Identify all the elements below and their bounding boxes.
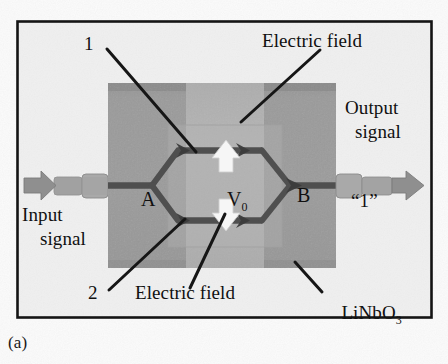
label-output-bit: “1” xyxy=(351,191,378,211)
label-electric-field-top: Electric field xyxy=(262,31,362,51)
label-arm-2: 2 xyxy=(88,283,98,303)
label-output-signal-line1: Output xyxy=(345,98,398,118)
label-substrate-material-formula: LiNbO xyxy=(341,302,395,323)
label-arm-1: 1 xyxy=(84,34,94,54)
label-substrate-material: LiNbO3 xyxy=(322,283,402,346)
label-output-signal-line2: signal xyxy=(355,122,401,142)
label-combiner-b: B xyxy=(297,185,310,206)
figure-a-mach-zehnder-modulator: 1 Electric field Output signal Input sig… xyxy=(0,0,448,364)
label-electric-field-bottom: Electric field xyxy=(135,283,235,303)
label-substrate-material-subscript: 3 xyxy=(396,313,402,327)
label-input-signal-line2: signal xyxy=(40,229,86,249)
label-voltage: V0 xyxy=(207,168,248,234)
label-voltage-symbol: V xyxy=(227,188,242,210)
label-splitter-a: A xyxy=(141,189,156,210)
label-voltage-subscript: 0 xyxy=(242,200,248,214)
figure-caption: (a) xyxy=(8,334,27,352)
label-input-signal-line1: Input xyxy=(22,205,63,225)
input-fiber-assembly xyxy=(54,174,112,198)
